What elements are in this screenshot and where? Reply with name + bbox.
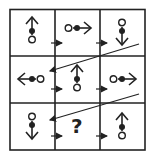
- cell-r3c3-up-arrow-icon: [116, 113, 128, 139]
- cell-r1c1-up-arrow-icon: [26, 17, 38, 43]
- cell-r2c1-left-arrow-icon: [18, 73, 44, 85]
- missing-cell-question-mark: ?: [71, 114, 83, 138]
- cell-r1c2-right-arrow-icon: [65, 22, 91, 34]
- cell-r2c3-right-arrow-icon: [110, 73, 136, 85]
- cell-r1c3-down-arrow-icon: [116, 19, 128, 45]
- flow-arrows: [50, 43, 139, 136]
- cell-r3c1-down-arrow-icon: [26, 113, 38, 139]
- cell-r2c2-up-arrow-icon: [71, 65, 83, 91]
- matrix-puzzle: ?: [0, 0, 155, 159]
